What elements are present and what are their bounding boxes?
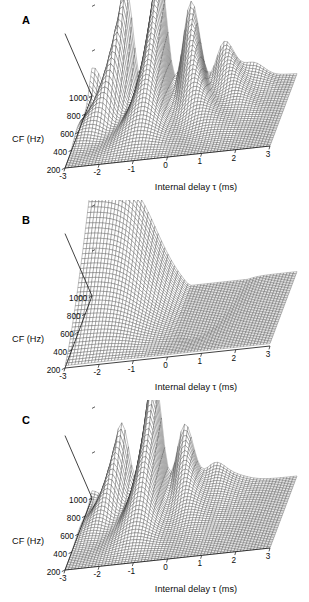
svg-text:1000: 1000	[69, 94, 88, 103]
svg-text:-3: -3	[59, 574, 67, 583]
svg-text:1: 1	[197, 357, 202, 366]
x-axis-title: Internal delay τ (ms)	[155, 382, 237, 392]
svg-text:400: 400	[53, 348, 67, 357]
svg-text:-1: -1	[128, 165, 136, 174]
svg-text:3: 3	[266, 552, 271, 561]
x-axis-title: Internal delay τ (ms)	[155, 182, 237, 192]
panel-c-surface-plot: -3-2-101232004006008001000Internal delay…	[0, 400, 309, 602]
panel-a: A -3-2-101232004006008001000Internal del…	[0, 0, 309, 200]
panel-a-surface-plot: -3-2-101232004006008001000Internal delay…	[0, 0, 309, 200]
y-axis-title: CF (Hz)	[12, 536, 44, 546]
y-axis-title: CF (Hz)	[12, 134, 44, 144]
svg-text:2: 2	[232, 354, 237, 363]
svg-text:600: 600	[60, 130, 74, 139]
svg-text:400: 400	[53, 550, 67, 559]
svg-text:200: 200	[47, 366, 61, 375]
panel-b: B -3-2-101232004006008001000Internal del…	[0, 200, 309, 400]
panel-b-surface-plot: -3-2-101232004006008001000Internal delay…	[0, 200, 309, 400]
svg-text:-1: -1	[128, 365, 136, 374]
y-axis-title: CF (Hz)	[12, 334, 44, 344]
svg-text:3: 3	[266, 350, 271, 359]
svg-text:-1: -1	[128, 567, 136, 576]
svg-text:1: 1	[197, 157, 202, 166]
svg-text:-2: -2	[94, 168, 102, 177]
x-axis-title: Internal delay τ (ms)	[155, 584, 237, 594]
svg-text:800: 800	[67, 112, 81, 121]
svg-text:200: 200	[47, 568, 61, 577]
svg-text:1: 1	[197, 559, 202, 568]
svg-text:600: 600	[60, 532, 74, 541]
svg-text:-3: -3	[59, 172, 67, 181]
svg-text:2: 2	[232, 154, 237, 163]
svg-text:800: 800	[67, 312, 81, 321]
svg-text:800: 800	[67, 514, 81, 523]
panel-c: C -3-2-101232004006008001000Internal del…	[0, 400, 309, 600]
svg-text:200: 200	[47, 166, 61, 175]
svg-text:1000: 1000	[69, 294, 88, 303]
svg-text:-2: -2	[94, 570, 102, 579]
svg-text:-3: -3	[59, 372, 67, 381]
svg-text:-2: -2	[94, 368, 102, 377]
svg-text:1000: 1000	[69, 496, 88, 505]
svg-text:400: 400	[53, 148, 67, 157]
svg-text:0: 0	[163, 563, 168, 572]
svg-text:2: 2	[232, 556, 237, 565]
svg-text:0: 0	[163, 161, 168, 170]
svg-text:600: 600	[60, 330, 74, 339]
svg-text:0: 0	[163, 361, 168, 370]
svg-text:3: 3	[266, 150, 271, 159]
